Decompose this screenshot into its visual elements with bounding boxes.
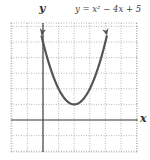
y-axis-label: y <box>39 2 45 15</box>
grid-lines <box>11 23 137 152</box>
parabola-chart <box>0 0 150 160</box>
x-axis-label: x <box>140 112 147 125</box>
equation-label: y = x² − 4x + 5 <box>75 4 141 14</box>
